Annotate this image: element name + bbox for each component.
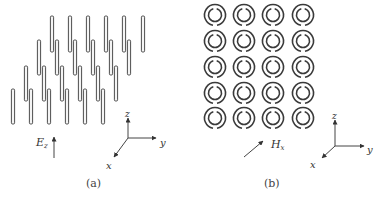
split-ring-resonator — [263, 31, 284, 52]
inner-ring — [297, 112, 310, 125]
x-axis-label: x — [310, 159, 316, 170]
h-field-indicator: Hx — [244, 138, 285, 157]
y-axis-label: y — [159, 137, 166, 148]
split-ring-resonator — [263, 83, 284, 104]
e-field-label: Ez — [35, 136, 48, 150]
inner-ring — [297, 9, 310, 22]
panel-b: Hx z y x (b) — [205, 5, 374, 190]
panel-a: Ez z y x (a) — [11, 16, 166, 190]
figure: Ez z y x (a) Hx z y x (b) — [0, 0, 378, 199]
wire-rod — [29, 89, 32, 124]
split-ring-resonator — [263, 108, 284, 129]
wire-rod — [91, 40, 94, 75]
split-ring-resonator — [293, 31, 314, 52]
inner-ring — [209, 9, 222, 22]
inner-ring — [238, 87, 251, 100]
wire-rod — [24, 66, 27, 101]
z-axis-label: z — [124, 109, 130, 119]
wire-rod — [68, 16, 71, 52]
inner-ring — [208, 87, 221, 100]
caption-b: (b) — [264, 177, 280, 190]
inner-ring — [267, 9, 280, 22]
wire-rod — [104, 16, 107, 52]
wire-rod — [141, 16, 144, 52]
wire-rod — [73, 40, 76, 75]
split-ring-resonator — [205, 83, 226, 104]
inner-ring — [267, 87, 280, 100]
x-axis-label: x — [106, 160, 112, 171]
inner-ring — [267, 112, 280, 125]
inner-ring — [297, 87, 310, 100]
inner-ring — [297, 35, 310, 48]
y-axis-label: y — [366, 144, 373, 155]
inner-ring — [238, 35, 251, 48]
wire-rod — [83, 89, 86, 124]
caption-a: (a) — [86, 177, 101, 190]
split-ring-resonator — [205, 31, 226, 52]
split-ring-resonator — [293, 108, 314, 129]
wire-rod — [109, 40, 112, 75]
inner-ring — [267, 61, 280, 74]
wire-rod — [37, 40, 40, 75]
inner-ring — [209, 35, 222, 48]
split-ring-resonator — [293, 57, 314, 78]
split-ring-resonator — [293, 83, 314, 104]
e-field-indicator: Ez — [35, 136, 54, 158]
split-ring-resonator — [205, 5, 226, 26]
z-axis-label: z — [331, 111, 337, 121]
inner-ring — [209, 112, 222, 125]
wire-rod — [96, 66, 99, 101]
inner-ring — [238, 112, 251, 125]
split-ring-resonator — [234, 83, 255, 104]
wire-rod — [101, 89, 104, 124]
split-ring-array — [205, 5, 314, 129]
split-ring-resonator — [205, 57, 226, 78]
h-field-arrow-icon — [244, 141, 263, 157]
wire-array — [11, 16, 144, 124]
wire-rod — [86, 16, 89, 52]
wire-rod — [42, 66, 45, 101]
x-axis-arrow-icon — [114, 138, 128, 157]
wire-rod — [65, 89, 68, 124]
wire-rod — [127, 40, 130, 75]
split-ring-resonator — [205, 108, 226, 129]
wire-rod — [114, 66, 117, 101]
wire-rod — [60, 66, 63, 101]
wire-rod — [78, 66, 81, 101]
wire-rod — [47, 89, 50, 124]
split-ring-resonator — [293, 5, 314, 26]
wire-rod — [122, 16, 125, 52]
axes-a: z y x — [106, 109, 166, 171]
wire-rod — [50, 16, 53, 52]
split-ring-resonator — [263, 5, 284, 26]
split-ring-resonator — [263, 57, 284, 78]
split-ring-resonator — [233, 57, 254, 78]
split-ring-resonator — [234, 108, 255, 129]
inner-ring — [238, 9, 251, 22]
wire-rod — [11, 89, 14, 124]
x-axis-arrow-icon — [322, 146, 335, 158]
wire-rod — [55, 40, 58, 75]
split-ring-resonator — [233, 31, 254, 52]
inner-ring — [297, 61, 310, 74]
inner-ring — [238, 61, 251, 74]
split-ring-resonator — [233, 5, 254, 26]
axes-b: z y x — [310, 111, 373, 170]
inner-ring — [208, 61, 221, 74]
h-field-label: Hx — [270, 138, 285, 152]
inner-ring — [267, 35, 280, 48]
